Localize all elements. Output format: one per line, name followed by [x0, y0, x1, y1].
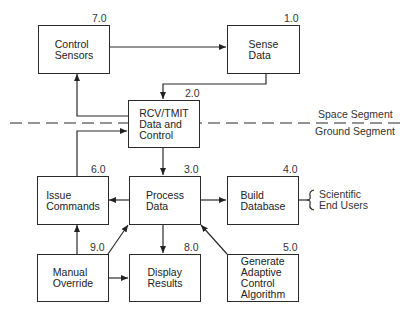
node-label: Manual Override: [53, 267, 93, 289]
external-scientific-end-users: Scientific End Users: [319, 189, 368, 211]
node-label: Control Sensors: [55, 39, 94, 61]
edge-5-to-3: [201, 225, 227, 254]
node-number-1: 1.0: [284, 12, 299, 24]
node-number-9: 9.0: [90, 241, 105, 253]
node-number-4: 4.0: [283, 163, 298, 175]
space-segment-label: Space Segment: [318, 108, 393, 120]
node-rcv-tmit: RCV/TMIT Data and Control: [128, 100, 200, 148]
node-number-7: 7.0: [92, 12, 107, 24]
node-sense-data: Sense Data: [227, 25, 300, 74]
node-label: Display Results: [147, 267, 182, 289]
node-label: RCV/TMIT Data and Control: [139, 108, 189, 141]
edge-9-to-3: [108, 225, 128, 254]
edge-1-to-2: [163, 73, 266, 99]
node-number-8: 8.0: [184, 241, 199, 253]
brace-icon: [307, 190, 314, 210]
node-number-6: 6.0: [91, 163, 106, 175]
node-manual-override: Manual Override: [37, 254, 109, 302]
node-label: Process Data: [146, 190, 184, 212]
node-label: Build Database: [241, 190, 286, 212]
node-display-results: Display Results: [129, 254, 201, 302]
ground-segment-label: Ground Segment: [315, 125, 395, 137]
edge-2-to-7: [77, 74, 128, 116]
node-control-sensors: Control Sensors: [38, 25, 110, 74]
node-number-2: 2.0: [185, 87, 200, 99]
node-number-5: 5.0: [283, 241, 298, 253]
node-build-database: Build Database: [227, 176, 299, 225]
node-label: Sense Data: [249, 39, 279, 61]
node-process-data: Process Data: [129, 176, 201, 225]
node-number-3: 3.0: [184, 163, 199, 175]
node-label: Issue Commands: [46, 190, 100, 212]
node-issue-commands: Issue Commands: [37, 176, 109, 225]
node-generate-adaptive: Generate Adaptive Control Algorithm: [227, 254, 299, 302]
node-label: Generate Adaptive Control Algorithm: [241, 256, 285, 300]
